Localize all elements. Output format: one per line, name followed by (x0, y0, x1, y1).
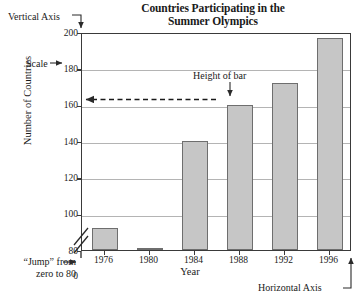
y-tick-label-80: 80 (48, 247, 78, 257)
y-tick-mark (77, 215, 81, 216)
gridline (82, 179, 350, 180)
bar-1996 (317, 38, 343, 251)
chart-title: Countries Participating in the Summer Ol… (108, 2, 318, 28)
y-tick-label-160: 160 (48, 101, 78, 111)
gridline (82, 216, 350, 217)
y-tick-mark (77, 142, 81, 143)
y-tick-label-180: 180 (48, 65, 78, 75)
chart-title-line-1: Countries Participating in the (141, 2, 285, 14)
bar-1976 (92, 228, 118, 250)
gridline (82, 143, 350, 144)
x-tick-label-1976: 1976 (81, 255, 127, 265)
x-tick-label-1992: 1992 (261, 255, 307, 265)
chart-title-line-2: Summer Olympics (108, 15, 318, 28)
x-tick-mark (149, 251, 150, 255)
x-tick-mark (284, 251, 285, 255)
y-tick-mark (77, 251, 81, 252)
leader-vertical-axis (72, 15, 81, 28)
x-tick-mark (239, 251, 240, 255)
bar-1992 (272, 83, 298, 250)
bar-1988 (227, 105, 253, 250)
annotation-scale: Scale (26, 58, 48, 69)
x-tick-label-1988: 1988 (216, 255, 262, 265)
x-tick-mark (329, 251, 330, 255)
x-tick-label-1996: 1996 (306, 255, 352, 265)
y-tick-label-200: 200 (48, 29, 78, 39)
gridline (82, 107, 350, 108)
annotation-vertical-axis: Vertical Axis (8, 11, 60, 22)
annotation-axis-break: “Jump” from zero to 80 (2, 256, 76, 279)
x-axis-title: Year (160, 266, 220, 277)
y-tick-mark (77, 178, 81, 179)
y-tick-label-120: 120 (48, 174, 78, 184)
x-tick-label-1984: 1984 (171, 255, 217, 265)
y-tick-mark (77, 106, 81, 107)
y-tick-label-140: 140 (48, 138, 78, 148)
x-tick-mark (104, 251, 105, 255)
annotation-height-of-bar: Height of bar (193, 70, 246, 81)
bar-1980 (137, 248, 163, 250)
x-tick-mark (194, 251, 195, 255)
y-tick-label-100: 100 (48, 210, 78, 220)
annotation-axis-break-line-1: “Jump” from (24, 256, 77, 267)
annotation-horizontal-axis: Horizontal Axis (258, 282, 322, 293)
bar-1984 (182, 141, 208, 250)
y-axis-tick-labels: 080100120140160180200 (45, 33, 78, 251)
bar-chart-figure: Countries Participating in the Summer Ol… (0, 0, 356, 303)
y-tick-mark (77, 33, 81, 34)
annotation-axis-break-line-2: zero to 80 (36, 268, 76, 279)
x-tick-label-1980: 1980 (126, 255, 172, 265)
plot-area (81, 33, 351, 251)
y-tick-mark (77, 69, 81, 70)
